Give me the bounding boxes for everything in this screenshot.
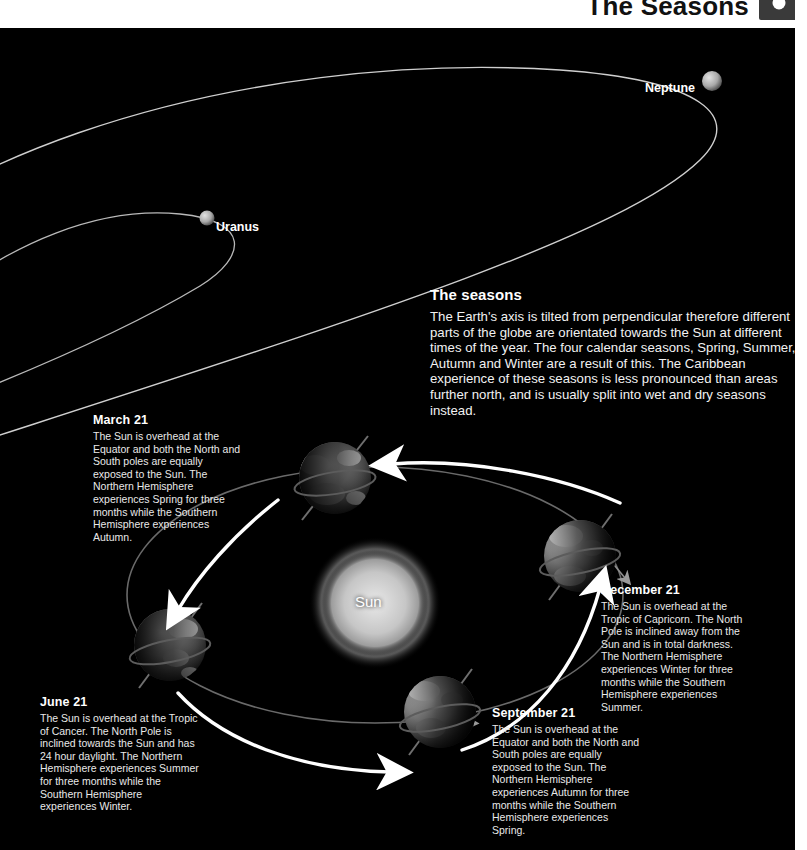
- solar-system-diagram: Neptune Uranus Sun The seasons The Earth…: [0, 28, 795, 850]
- seasons-panel-title: The seasons: [430, 286, 795, 303]
- annotation-march-body: The Sun is overhead at the Equator and b…: [93, 430, 245, 543]
- earth-march: [293, 436, 377, 520]
- planet-label-uranus: Uranus: [216, 220, 259, 234]
- motion-arrow-dec-to-march: [392, 463, 620, 503]
- planet-label-neptune: Neptune: [645, 81, 695, 95]
- motion-arrow-june-to-sept: [178, 693, 390, 772]
- annotation-december-title: December 21: [601, 583, 753, 597]
- seasons-panel: The seasons The Earth's axis is tilted f…: [430, 286, 795, 418]
- annotation-june-body: The Sun is overhead at the Tropic of Can…: [40, 712, 200, 813]
- annotation-december-body: The Sun is overhead at the Tropic of Cap…: [601, 600, 753, 713]
- earth-june: [128, 603, 213, 688]
- page-title: The Seasons: [586, 0, 749, 22]
- sun-label: Sun: [355, 593, 382, 610]
- page-number-badge: [759, 0, 799, 20]
- annotation-september: September 21 The Sun is overhead at the …: [492, 706, 644, 836]
- annotation-september-body: The Sun is overhead at the Equator and b…: [492, 723, 644, 836]
- circle-dot-icon: [773, 0, 786, 10]
- earth-september: [398, 669, 483, 755]
- annotation-december: December 21 The Sun is overhead at the T…: [601, 583, 753, 713]
- page-canvas: The Seasons: [0, 0, 807, 850]
- annotation-june: June 21 The Sun is overhead at the Tropi…: [40, 695, 200, 813]
- annotation-march-title: March 21: [93, 413, 245, 427]
- annotation-march: March 21 The Sun is overhead at the Equa…: [93, 413, 245, 543]
- page-right-margin: [795, 0, 807, 850]
- annotation-june-title: June 21: [40, 695, 200, 709]
- seasons-panel-body: The Earth's axis is tilted from perpendi…: [430, 309, 795, 418]
- planet-uranus: [200, 211, 215, 226]
- planet-neptune: [702, 71, 722, 91]
